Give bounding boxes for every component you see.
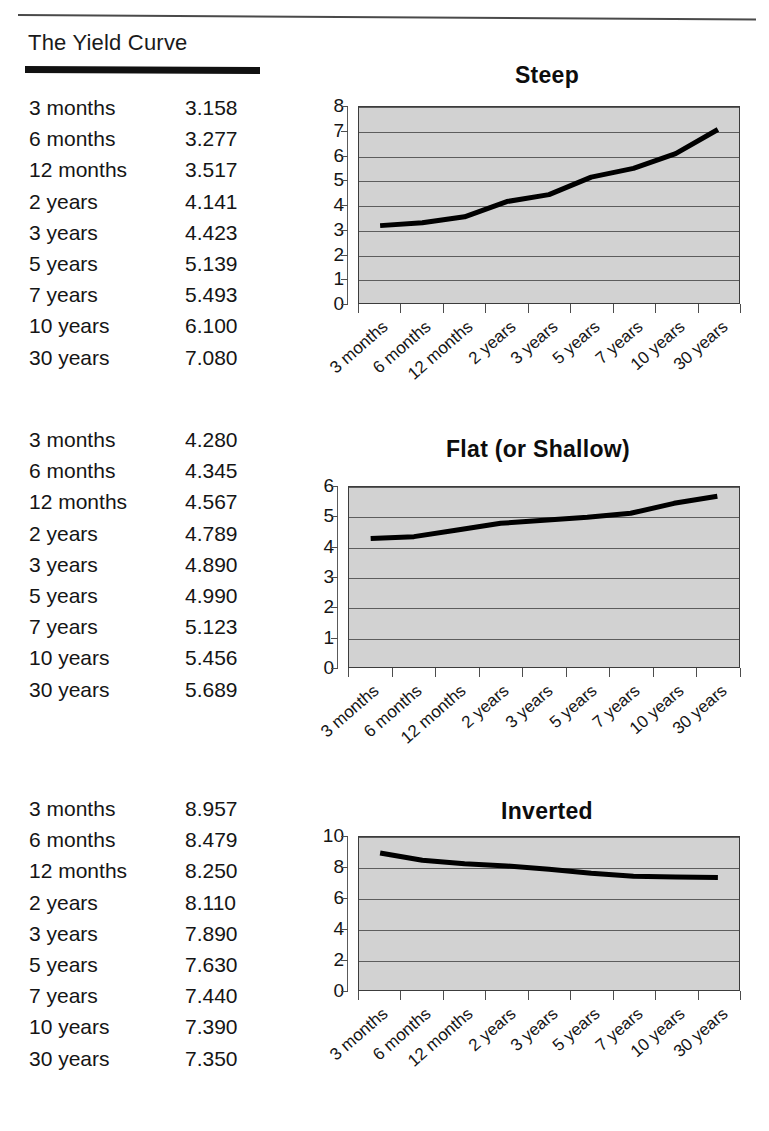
y-axis-tick-label: 3 — [292, 566, 334, 588]
y-axis-tick-label: 2 — [292, 244, 344, 266]
x-axis-tick-mark — [392, 668, 393, 677]
y-axis-tick-mark — [341, 960, 348, 961]
x-axis-tick-mark — [698, 991, 699, 1000]
y-axis-tick-mark — [341, 106, 348, 107]
y-axis-tick-mark — [331, 486, 338, 487]
inverted-table: 3 months8.9576 months8.47912 months8.250… — [0, 793, 290, 1074]
y-axis-tick-mark — [341, 929, 348, 930]
yield-value: 6.100 — [185, 310, 238, 341]
x-axis-tick-mark — [485, 991, 486, 1000]
yield-value: 7.080 — [185, 342, 238, 373]
table-row: 5 years5.139 — [0, 248, 290, 279]
table-row: 5 years4.990 — [0, 580, 290, 611]
table-row: 5 years7.630 — [0, 949, 290, 980]
maturity-label: 30 years — [29, 1043, 110, 1074]
y-axis-tick-label: 1 — [292, 268, 344, 290]
y-axis-tick-label: 10 — [292, 825, 344, 847]
maturity-label: 3 months — [29, 793, 115, 824]
y-axis-tick-mark — [341, 991, 348, 992]
maturity-label: 5 years — [29, 248, 98, 279]
yield-value: 4.141 — [185, 186, 238, 217]
x-axis-tick-mark — [740, 991, 741, 1000]
maturity-label: 10 years — [29, 642, 110, 673]
y-axis-tick-mark — [341, 304, 348, 305]
table-row: 10 years7.390 — [0, 1011, 290, 1042]
y-axis-tick-mark — [341, 131, 348, 132]
table-row: 6 months8.479 — [0, 824, 290, 855]
y-axis-tick-label: 6 — [292, 887, 344, 909]
yield-value: 7.890 — [185, 918, 238, 949]
y-axis-tick-label: 8 — [292, 856, 344, 878]
x-axis-tick-mark — [566, 668, 567, 677]
plot-area-inverted: 02468103 months6 months12 months2 years3… — [292, 798, 762, 1128]
maturity-label: 10 years — [29, 1011, 110, 1042]
flat-table: 3 months4.2806 months4.34512 months4.567… — [0, 424, 290, 705]
maturity-label: 5 years — [29, 949, 98, 980]
maturity-label: 5 years — [29, 580, 98, 611]
yield-value: 5.123 — [185, 611, 238, 642]
table-row: 30 years5.689 — [0, 674, 290, 705]
maturity-label: 10 years — [29, 310, 110, 341]
y-axis-tick-label: 4 — [292, 536, 334, 558]
y-axis-tick-label: 4 — [292, 194, 344, 216]
y-axis-tick-label: 2 — [292, 949, 344, 971]
x-axis-tick-mark — [348, 668, 349, 677]
y-axis-tick-mark — [341, 898, 348, 899]
table-row: 7 years5.123 — [0, 611, 290, 642]
x-axis-tick-mark — [653, 668, 654, 677]
maturity-label: 3 months — [29, 92, 115, 123]
maturity-label: 3 years — [29, 918, 98, 949]
x-axis-tick-mark — [479, 668, 480, 677]
x-axis-tick-mark — [613, 304, 614, 313]
y-axis-tick-mark — [331, 577, 338, 578]
yield-value: 4.890 — [185, 549, 238, 580]
x-axis-tick-mark — [570, 991, 571, 1000]
table-row: 3 years7.890 — [0, 918, 290, 949]
table-row: 6 months4.345 — [0, 455, 290, 486]
chart-inverted: Inverted 02468103 months6 months12 month… — [292, 798, 762, 1128]
steep-table: 3 months3.1586 months3.27712 months3.517… — [0, 92, 290, 373]
table-row: 3 years4.890 — [0, 549, 290, 580]
maturity-label: 7 years — [29, 279, 98, 310]
table-row: 3 years4.423 — [0, 217, 290, 248]
table-row: 10 years5.456 — [0, 642, 290, 673]
y-axis-tick-mark — [341, 156, 348, 157]
y-axis-tick-label: 0 — [292, 980, 344, 1002]
y-axis-tick-mark — [341, 230, 348, 231]
table-row: 2 years4.789 — [0, 518, 290, 549]
table-row: 2 years4.141 — [0, 186, 290, 217]
series-line-0 — [359, 107, 739, 303]
x-axis-tick-mark — [655, 991, 656, 1000]
maturity-label: 7 years — [29, 980, 98, 1011]
y-axis-tick-label: 8 — [292, 95, 344, 117]
maturity-label: 12 months — [29, 486, 127, 517]
x-axis-tick-mark — [609, 668, 610, 677]
yield-value: 4.423 — [185, 217, 238, 248]
table-row: 7 years5.493 — [0, 279, 290, 310]
chart-steep: Steep 0123456783 months6 months12 months… — [292, 62, 762, 392]
table-row: 12 months4.567 — [0, 486, 290, 517]
page-title: The Yield Curve — [28, 30, 188, 56]
plot-background — [358, 106, 740, 304]
x-axis-tick-mark — [443, 304, 444, 313]
y-axis-tick-label: 7 — [292, 120, 344, 142]
x-axis-tick-mark — [613, 991, 614, 1000]
table-row: 12 months8.250 — [0, 855, 290, 886]
yield-value: 7.350 — [185, 1043, 238, 1074]
yield-value: 8.110 — [185, 887, 236, 918]
table-row: 3 months3.158 — [0, 92, 290, 123]
yield-curve-page: The Yield Curve 3 months3.1586 months3.2… — [0, 0, 769, 1131]
maturity-label: 3 months — [29, 424, 115, 455]
yield-value: 8.250 — [185, 855, 238, 886]
maturity-label: 3 years — [29, 549, 98, 580]
maturity-label: 12 months — [29, 855, 127, 886]
x-axis-tick-mark — [655, 304, 656, 313]
x-axis-tick-mark — [358, 991, 359, 1000]
plot-background — [358, 836, 740, 991]
table-row: 7 years7.440 — [0, 980, 290, 1011]
yield-value: 8.957 — [185, 793, 238, 824]
y-axis-tick-label: 5 — [292, 505, 334, 527]
y-axis-spine — [347, 836, 348, 991]
y-axis-tick-label: 0 — [292, 657, 334, 679]
y-axis-tick-mark — [341, 867, 348, 868]
